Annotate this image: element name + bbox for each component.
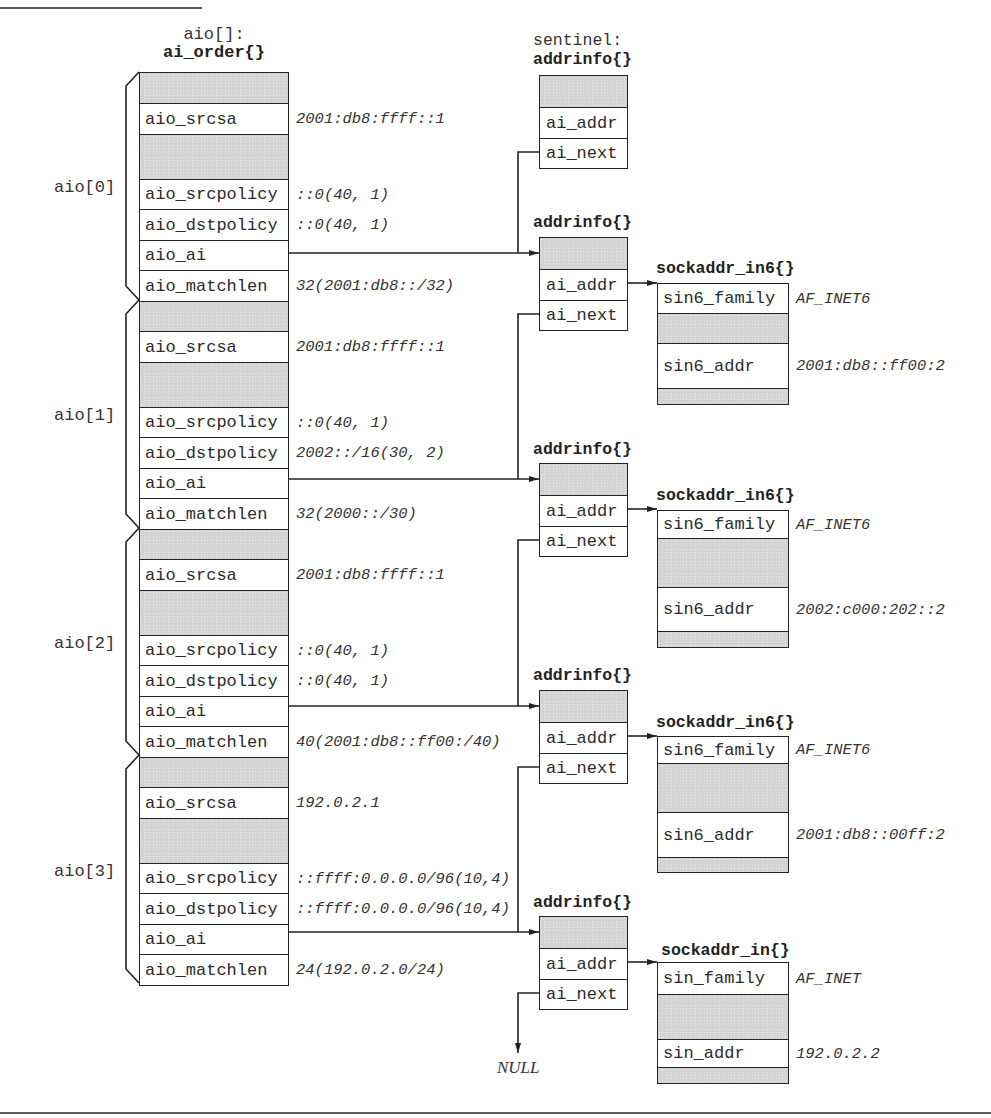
padding-field [540, 238, 627, 269]
field-addr: sin6_addr2001:db8::00ff:2 [658, 812, 788, 857]
padding-field [658, 763, 788, 812]
field-value: ::0(40, 1) [296, 216, 389, 234]
field-value: AF_INET [796, 970, 861, 988]
field-aio-matchlen: aio_matchlen40(2001:db8::ff00:/40) [140, 726, 288, 757]
field-aio-dstpolicy: aio_dstpolicy::ffff:0.0.0.0/96(10,4) [140, 893, 288, 924]
field-name: sin6_addr [658, 600, 755, 619]
field-aio-srcpolicy: aio_srcpolicy::0(40, 1) [140, 635, 288, 665]
field-name: ai_next [540, 144, 617, 163]
sockaddr-title: sockaddr_in6{} [656, 485, 795, 507]
field-name: aio_srcsa [140, 566, 237, 585]
field-aio-dstpolicy: aio_dstpolicy::0(40, 1) [140, 209, 288, 240]
padding-field [658, 631, 788, 647]
padding-field [540, 464, 627, 495]
field-aio-srcsa: aio_srcsa2001:db8:ffff::1 [140, 103, 288, 134]
field-name: ai_next [540, 532, 617, 551]
field-aio-matchlen: aio_matchlen24(192.0.2.0/24) [140, 954, 288, 985]
padding-field [140, 529, 288, 559]
field-name: sin_family [658, 969, 765, 988]
padding-field [658, 994, 788, 1039]
aio-entry-0: aio[0] aio_srcsa2001:db8:ffff::1 aio_src… [140, 73, 288, 301]
field-name: aio_ai [140, 246, 206, 265]
addrinfo-1: ai_addr ai_next [539, 463, 628, 557]
field-name: sin6_family [658, 289, 775, 308]
field-value: 2001:db8:ffff::1 [296, 566, 445, 584]
field-ai-next: ai_next [540, 300, 627, 330]
field-ai-next: ai_next [540, 979, 627, 1009]
field-family: sin6_familyAF_INET6 [658, 511, 788, 538]
field-name: aio_ai [140, 702, 206, 721]
field-name: aio_dstpolicy [140, 672, 278, 691]
field-value: 32(2001:db8::/32) [296, 277, 454, 295]
padding-field [540, 691, 627, 722]
field-value: 192.0.2.2 [796, 1045, 880, 1063]
field-ai-next: ai_next [540, 138, 627, 168]
sockaddr-title: sockaddr_in6{} [656, 258, 795, 280]
bracket-aio-1 [126, 300, 139, 528]
addrinfo-0: ai_addr ai_next [539, 237, 628, 331]
ai-next-null-arrow [518, 993, 539, 1053]
field-aio-ai: aio_ai [140, 924, 288, 954]
field-name: sin6_family [658, 741, 775, 760]
field-name: aio_matchlen [140, 277, 267, 296]
field-aio-ai: aio_ai [140, 240, 288, 270]
padding-field [140, 818, 288, 863]
field-aio-matchlen: aio_matchlen32(2001:db8::/32) [140, 270, 288, 301]
field-family: sin6_familyAF_INET6 [658, 284, 788, 313]
sockaddr-title: sockaddr_in{} [661, 940, 790, 962]
aio-array-label: aio[]: [139, 26, 289, 44]
padding-field [140, 134, 288, 179]
field-value: AF_INET6 [796, 741, 870, 759]
field-aio-matchlen: aio_matchlen32(2000::/30) [140, 498, 288, 529]
field-value: 192.0.2.1 [296, 794, 380, 812]
sockaddr-title: sockaddr_in6{} [656, 712, 795, 734]
field-name: aio_srcpolicy [140, 185, 278, 204]
field-value: 40(2001:db8::ff00:/40) [296, 733, 501, 751]
addrinfo-3: ai_addr ai_next [539, 916, 628, 1010]
bracket-aio-2 [126, 528, 139, 755]
field-value: ::0(40, 1) [296, 642, 389, 660]
padding-field [658, 538, 788, 587]
field-name: ai_addr [540, 502, 617, 521]
addrinfo-title: addrinfo{} [533, 212, 632, 234]
field-ai-addr: ai_addr [540, 722, 627, 753]
aio-struct-name: ai_order{} [139, 44, 289, 62]
field-ai-addr: ai_addr [540, 495, 627, 526]
field-value: 2002:c000:202::2 [796, 601, 945, 619]
field-value: 2001:db8::ff00:2 [796, 357, 945, 375]
ai-order-title: aio[]: ai_order{} [139, 26, 289, 62]
ai-next-link-sentinel [518, 152, 539, 253]
field-aio-srcpolicy: aio_srcpolicy::ffff:0.0.0.0/96(10,4) [140, 863, 288, 893]
addrinfo-title: addrinfo{} [533, 665, 632, 687]
padding-field [140, 73, 288, 103]
field-name: aio_ai [140, 930, 206, 949]
field-name: sin6_addr [658, 357, 755, 376]
addrinfo-title: addrinfo{} [533, 892, 632, 914]
field-ai-addr: ai_addr [540, 107, 627, 138]
padding-field [658, 388, 788, 404]
field-name: aio_srcpolicy [140, 641, 278, 660]
field-aio-srcsa: aio_srcsa192.0.2.1 [140, 787, 288, 818]
field-ai-addr: ai_addr [540, 269, 627, 300]
addrinfo-title: addrinfo{} [533, 439, 632, 461]
field-family: sin6_familyAF_INET6 [658, 737, 788, 763]
diagram-canvas: aio[]: ai_order{} aio[0] aio_srcsa2001:d… [0, 0, 991, 1118]
sockaddr-1: sin6_familyAF_INET6 sin6_addr2002:c000:2… [657, 510, 789, 648]
field-name: aio_matchlen [140, 505, 267, 524]
sentinel-title: sentinel: addrinfo{} [533, 31, 632, 69]
padding-field [140, 362, 288, 407]
sockaddr-0: sin6_familyAF_INET6 sin6_addr2001:db8::f… [657, 283, 789, 405]
sockaddr-3: sin_familyAF_INET sin_addr192.0.2.2 [657, 962, 789, 1084]
field-value: ::0(40, 1) [296, 186, 389, 204]
padding-field [540, 917, 627, 948]
field-aio-ai: aio_ai [140, 468, 288, 498]
field-name: sin6_family [658, 515, 775, 534]
aio-entry-3: aio[3] aio_srcsa192.0.2.1 aio_srcpolicy:… [140, 757, 288, 985]
field-name: aio_srcpolicy [140, 413, 278, 432]
field-name: sin_addr [658, 1044, 745, 1063]
aio-entry-2: aio[2] aio_srcsa2001:db8:ffff::1 aio_src… [140, 529, 288, 757]
field-aio-dstpolicy: aio_dstpolicy::0(40, 1) [140, 665, 288, 696]
padding-field [540, 76, 627, 107]
field-value: ::0(40, 1) [296, 672, 389, 690]
addrinfo-2: ai_addr ai_next [539, 690, 628, 784]
